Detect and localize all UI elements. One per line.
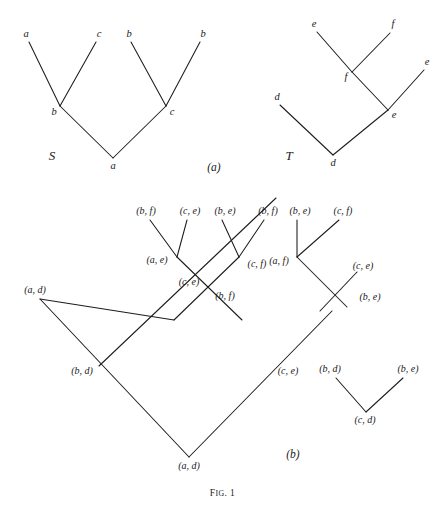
tree-t-leaf-f: f <box>392 19 395 30</box>
tree-s-internal-b: b <box>51 107 56 118</box>
tree-t-root-d: d <box>330 158 335 169</box>
tree-t-leaf-e1: e <box>312 19 317 30</box>
node-be-right: (b, e) <box>359 292 380 302</box>
node-be-top-1: (b, e) <box>214 206 235 216</box>
tree-t-leaf-d: d <box>274 92 279 103</box>
tree-s-internal-c: c <box>170 107 175 118</box>
node-bd-small: (b, d) <box>319 364 341 374</box>
node-bf-cross: (b, f) <box>215 291 234 301</box>
tree-s-root-a: a <box>110 161 115 172</box>
node-cd-small: (c, d) <box>354 415 375 425</box>
tree-s-leaf-b1: b <box>126 29 131 40</box>
tree-s-leaf-a1: a <box>23 29 28 40</box>
node-ad-bottom: (a, d) <box>178 461 200 471</box>
node-ad-left: (a, d) <box>24 285 46 295</box>
node-cf-mid: (c, f) <box>248 259 267 269</box>
node-be-small: (b, e) <box>397 364 418 374</box>
figure-caption-suffix: . 1 <box>225 488 236 498</box>
node-be-top-2: (b, e) <box>289 206 310 216</box>
node-ce-lower: (c, e) <box>278 366 299 376</box>
tree-t-name: T <box>285 149 292 162</box>
tree-s-name: S <box>49 149 56 162</box>
node-bd-left: (b, d) <box>71 366 93 376</box>
tree-t-edges <box>280 32 424 155</box>
node-ce-mid: (c, e) <box>179 277 200 287</box>
node-cf-top-2: (c, f) <box>334 206 353 216</box>
panel-label-b: (b) <box>286 449 299 461</box>
tree-t-leaf-e2: e <box>425 57 430 68</box>
node-bf-top-2: (b, f) <box>258 206 277 216</box>
node-ce-right: (c, e) <box>353 261 374 271</box>
tree-t-internal-e: e <box>392 110 397 121</box>
figure-1: a c b b b c a S e f f e e d d T (a) (b, … <box>0 0 445 508</box>
panel-label-a: (a) <box>207 162 220 174</box>
figure-line-art <box>0 0 445 508</box>
figure-caption: FIG. 1 <box>210 488 235 498</box>
node-af: (a, f) <box>269 256 288 266</box>
tree-t-internal-f: f <box>345 72 348 83</box>
tree-s-leaf-c: c <box>97 29 102 40</box>
product-graph-edges <box>40 198 403 457</box>
node-ae: (a, e) <box>146 255 167 265</box>
node-bf-top-1: (b, f) <box>136 206 155 216</box>
figure-caption-smallcaps: IG <box>215 489 224 498</box>
node-ce-top-1: (c, e) <box>180 206 201 216</box>
tree-s-leaf-b2: b <box>200 29 205 40</box>
tree-s-edges <box>29 42 200 158</box>
